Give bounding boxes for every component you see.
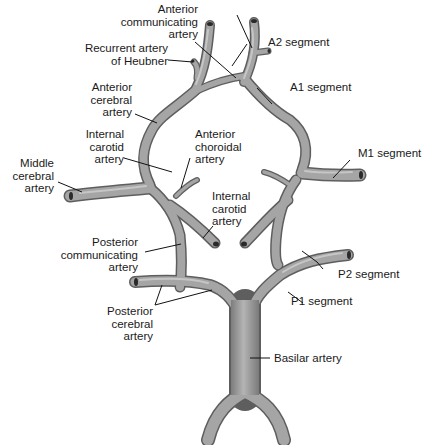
label-internal-carotid-artery-left: Internal carotid artery [70,128,124,166]
circle-of-willis-diagram: Anterior communicating artery Recurrent … [0,0,433,445]
label-posterior-cerebral-artery: Posterior cerebral artery [95,305,153,343]
label-anterior-communicating-artery: Anterior communicating artery [108,3,198,41]
label-recurrent-artery-of-heubner: Recurrent artery of Heubner [68,42,168,67]
label-m1-segment: M1 segment [358,147,421,160]
label-middle-cerebral-artery: Middle cerebral artery [0,157,54,195]
label-anterior-choroidal-artery: Anterior choroidal artery [195,128,242,166]
label-posterior-communicating-artery: Posterior communicating artery [42,236,138,274]
basilar-trunk [231,300,259,395]
label-anterior-cerebral-artery: Anterior cerebral artery [70,81,132,119]
label-p1-segment: P1 segment [291,295,352,308]
label-basilar-artery: Basilar artery [274,352,342,365]
label-a2-segment: A2 segment [268,36,329,49]
label-a1-segment: A1 segment [290,81,351,94]
label-internal-carotid-artery-center: Internal carotid artery [212,190,250,228]
label-p2-segment: P2 segment [338,268,399,281]
